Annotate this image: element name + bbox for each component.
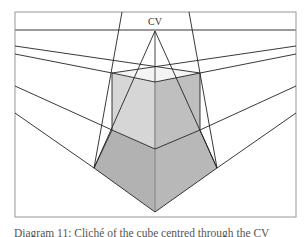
cv-label: CV: [148, 16, 163, 27]
figure-caption: Diagram 11: Cliché of the cube centred t…: [14, 226, 304, 237]
perspective-diagram: CV: [0, 0, 308, 237]
